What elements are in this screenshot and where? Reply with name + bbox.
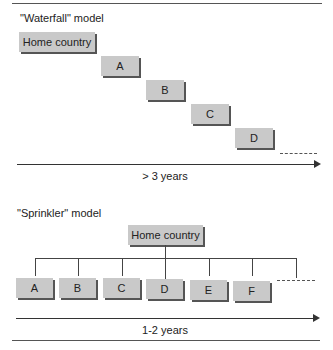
sprinkler-time-axis	[16, 318, 316, 319]
sprinkler-drop-b	[78, 258, 79, 276]
waterfall-box-c: C	[191, 104, 229, 124]
bottom-rule	[12, 340, 320, 341]
sprinkler-drop-c	[122, 258, 123, 276]
waterfall-home-country-box: Home country	[19, 32, 95, 52]
sprinkler-drop-continuation	[296, 258, 297, 278]
sprinkler-box-c: C	[103, 278, 140, 298]
top-rule	[12, 3, 322, 4]
sprinkler-arrow-head-icon	[313, 314, 320, 322]
sprinkler-drop-f	[252, 258, 253, 276]
waterfall-time-axis	[17, 164, 317, 165]
waterfall-box-b: B	[146, 80, 184, 100]
sprinkler-box-a: A	[16, 278, 53, 298]
sprinkler-axis-label: 1-2 years	[120, 324, 210, 336]
waterfall-arrow-head-icon	[314, 160, 321, 168]
sprinkler-branch-line	[35, 258, 296, 259]
sprinkler-home-country-box: Home country	[128, 225, 203, 245]
waterfall-box-d: D	[235, 128, 273, 148]
sprinkler-title: "Sprinkler" model	[17, 207, 101, 219]
waterfall-axis-label: > 3 years	[120, 170, 210, 182]
waterfall-title: "Waterfall" model	[20, 12, 104, 24]
sprinkler-box-b: B	[59, 278, 96, 298]
sprinkler-continuation-dash	[277, 280, 315, 281]
sprinkler-drop-a	[35, 258, 36, 276]
sprinkler-drop-e	[209, 258, 210, 276]
waterfall-continuation-dash	[280, 153, 317, 154]
sprinkler-box-f: F	[233, 281, 270, 301]
sprinkler-box-e: E	[190, 280, 227, 300]
sprinkler-trunk-line	[165, 245, 166, 283]
sprinkler-box-d: D	[146, 279, 183, 299]
waterfall-box-a: A	[101, 56, 139, 76]
